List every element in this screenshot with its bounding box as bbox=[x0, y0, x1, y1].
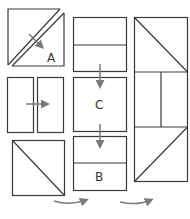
split-rectangles bbox=[8, 78, 64, 133]
curved-arrow-2 bbox=[120, 200, 151, 204]
half-square-triangle bbox=[13, 141, 65, 196]
label-c: C bbox=[95, 99, 103, 111]
label-b: B bbox=[95, 171, 103, 183]
curved-arrow-1 bbox=[54, 200, 86, 203]
square-a bbox=[8, 9, 64, 66]
right-column bbox=[135, 18, 188, 182]
quilt-block-diagram: A C B bbox=[0, 0, 190, 219]
label-a: A bbox=[47, 52, 55, 64]
